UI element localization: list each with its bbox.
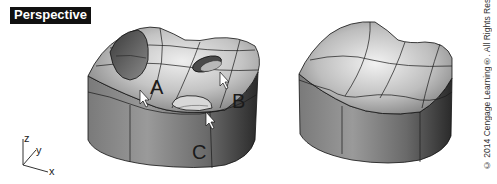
callout-a: A xyxy=(150,76,164,98)
callout-c: C xyxy=(192,141,206,163)
perspective-viewport[interactable]: A B C z y x xyxy=(0,0,497,184)
y-axis-label: y xyxy=(36,144,42,156)
copyright-notice: © 2014 Cengage Learning®. All Rights Res… xyxy=(479,30,495,170)
x-axis-line xyxy=(23,165,48,172)
callout-b: B xyxy=(232,90,245,112)
z-axis-label: z xyxy=(24,132,30,144)
model-repaired[interactable] xyxy=(299,22,452,163)
y-axis-line xyxy=(23,150,36,165)
model-with-holes[interactable]: A B C xyxy=(88,27,259,168)
x-axis-label: x xyxy=(49,165,55,177)
axis-triad: z y x xyxy=(23,132,55,177)
